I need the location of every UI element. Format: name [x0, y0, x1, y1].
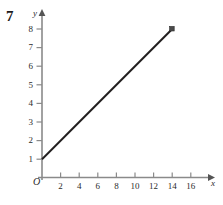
y-tick-label-1: 1 — [21, 154, 33, 164]
origin-label: O — [33, 176, 40, 187]
data-endpoint-marker — [170, 26, 175, 31]
y-axis-arrowhead — [39, 9, 46, 16]
x-tick-label-14: 14 — [164, 181, 180, 191]
x-tick-label-2: 2 — [53, 181, 69, 191]
x-tick-label-10: 10 — [127, 181, 143, 191]
y-tick-label-3: 3 — [21, 117, 33, 127]
y-tick-label-2: 2 — [21, 135, 33, 145]
y-tick-label-8: 8 — [21, 24, 33, 34]
x-tick-label-8: 8 — [108, 181, 124, 191]
coordinate-plot — [0, 0, 223, 205]
y-tick-label-5: 5 — [21, 80, 33, 90]
x-axis-label: x — [211, 178, 215, 188]
y-tick-label-6: 6 — [21, 61, 33, 71]
x-tick-label-12: 12 — [146, 181, 162, 191]
y-axis-ticks — [37, 29, 43, 159]
y-tick-label-7: 7 — [21, 42, 33, 52]
x-tick-label-16: 16 — [183, 181, 199, 191]
y-axis-label: y — [33, 8, 37, 18]
x-tick-label-6: 6 — [90, 181, 106, 191]
figure-container: 7 — [0, 0, 223, 205]
y-tick-label-4: 4 — [21, 98, 33, 108]
x-tick-label-4: 4 — [71, 181, 87, 191]
data-line-series — [42, 29, 172, 159]
